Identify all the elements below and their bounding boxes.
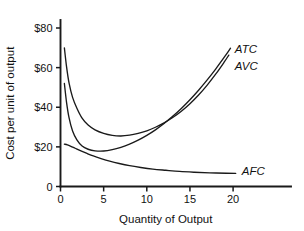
chart-canvas: 0$20$40$60$80 05101520 ATCAVCAFC Quantit… xyxy=(0,0,304,231)
curve-label-afc: AFC xyxy=(241,165,266,177)
y-tick-label: 0 xyxy=(46,181,52,193)
x-tick-label: 20 xyxy=(227,193,239,205)
y-axis-tick-labels: 0$20$40$60$80 xyxy=(34,22,52,193)
y-tick-label: $40 xyxy=(34,101,52,113)
x-axis-title: Quantity of Output xyxy=(119,213,213,225)
x-tick-label: 0 xyxy=(57,193,63,205)
curve-atc xyxy=(64,48,228,136)
y-tick-label: $20 xyxy=(34,141,52,153)
y-tick-label: $80 xyxy=(34,22,52,34)
x-tick-label: 10 xyxy=(141,193,153,205)
x-axis-tick-labels: 05101520 xyxy=(57,193,239,205)
curve-label-atc: ATC xyxy=(234,43,258,55)
curves-group xyxy=(64,48,235,174)
curve-label-avc: AVC xyxy=(234,60,259,72)
x-tick-label: 5 xyxy=(101,193,107,205)
x-tick-label: 15 xyxy=(184,193,196,205)
curve-labels-group: ATCAVCAFC xyxy=(234,43,266,177)
curve-afc xyxy=(64,144,235,173)
curve-avc xyxy=(64,48,230,151)
cost-curves-chart: 0$20$40$60$80 05101520 ATCAVCAFC Quantit… xyxy=(0,0,304,231)
y-axis-title: Cost per unit of output xyxy=(4,46,16,160)
y-tick-label: $60 xyxy=(34,62,52,74)
